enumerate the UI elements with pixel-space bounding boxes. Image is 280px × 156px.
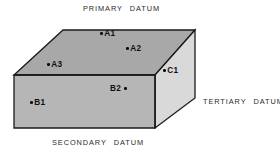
tertiary-datum-label: TERTIARYDATUM — [203, 97, 280, 106]
datum-reference-diagram: PRIMARYDATUM SECONDARYDATUM TERTIARYDATU… — [0, 0, 280, 156]
datum-target-a1: A1 — [100, 29, 115, 38]
datum-target-b1-label: B1 — [34, 98, 45, 107]
secondary-datum-word1: SECONDARY — [52, 138, 107, 147]
primary-datum-word2: DATUM — [130, 4, 160, 13]
block-illustration — [0, 0, 280, 156]
datum-target-point-icon — [47, 63, 50, 66]
secondary-datum-word2: DATUM — [114, 138, 144, 147]
datum-target-a2-label: A2 — [130, 44, 141, 53]
secondary-datum-label: SECONDARYDATUM — [52, 138, 144, 147]
datum-target-point-icon — [126, 47, 129, 50]
primary-datum-word1: PRIMARY — [83, 4, 123, 13]
datum-target-point-icon — [30, 101, 33, 104]
primary-datum-label: PRIMARYDATUM — [83, 4, 160, 13]
datum-target-c1: C1 — [163, 66, 178, 75]
datum-target-a1-label: A1 — [104, 29, 115, 38]
datum-target-b2-label: B2 — [110, 84, 121, 93]
tertiary-datum-word1: TERTIARY — [203, 97, 246, 106]
datum-target-point-icon — [100, 32, 103, 35]
tertiary-datum-word2: DATUM — [253, 97, 280, 106]
datum-target-a3: A3 — [47, 60, 62, 69]
datum-target-point-icon — [124, 87, 127, 90]
datum-target-c1-label: C1 — [167, 66, 178, 75]
datum-target-point-icon — [163, 69, 166, 72]
datum-target-a2: A2 — [126, 44, 141, 53]
datum-target-b2: B2 — [110, 84, 127, 93]
datum-target-a3-label: A3 — [51, 60, 62, 69]
datum-target-b1: B1 — [30, 98, 45, 107]
